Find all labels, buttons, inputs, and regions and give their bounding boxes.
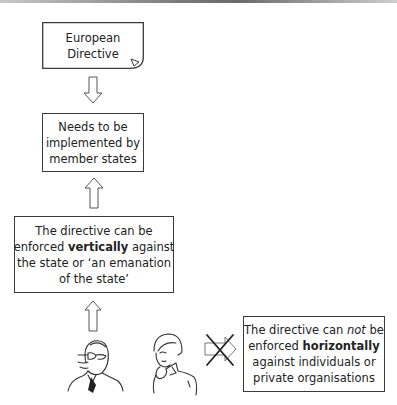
vertical-line3: the state or ‘an emanation (17, 255, 171, 271)
directive-label-line1: European (66, 31, 121, 45)
vertical-line2-post: against (128, 240, 174, 254)
horizontal-line2: enforced horizontally (248, 338, 379, 354)
arrow-up-icon (84, 300, 102, 332)
horizontal-line1-post: be (366, 323, 384, 337)
node-horizontal-enforcement: The directive can not be enforced horizo… (243, 316, 385, 392)
individual-figure-icon (148, 331, 200, 397)
implementation-line2: implemented by (46, 135, 140, 151)
vertical-line2: enforced vertically against (14, 239, 175, 255)
implementation-line1: Needs to be (58, 119, 127, 135)
vertical-emphasis: vertically (68, 240, 128, 254)
node-vertical-enforcement: The directive can be enforced vertically… (14, 216, 174, 293)
arrow-up-icon (84, 177, 104, 209)
horizontal-line1-pre: The directive can (244, 323, 347, 337)
vertical-line4: of the state’ (59, 271, 129, 287)
node-european-directive: European Directive (42, 22, 144, 69)
crossed-arrow-right-icon (203, 333, 239, 369)
horizontal-line3: against individuals or (252, 354, 375, 370)
horizontal-line1: The directive can not be (244, 322, 384, 338)
horizontal-emphasis: horizontally (303, 339, 380, 353)
state-official-figure-icon (66, 335, 124, 395)
horizontal-line4: private organisations (253, 370, 375, 386)
horizontal-negation: not (347, 323, 366, 337)
top-edge-bar (0, 0, 397, 3)
node-implementation: Needs to be implemented by member states (42, 113, 144, 172)
directive-label-line2: Directive (67, 47, 119, 61)
implementation-line3: member states (49, 151, 136, 167)
vertical-line1: The directive can be (35, 223, 152, 239)
vertical-line2-pre: enforced (14, 240, 68, 254)
arrow-down-icon (83, 76, 103, 104)
horizontal-line2-pre: enforced (248, 339, 302, 353)
